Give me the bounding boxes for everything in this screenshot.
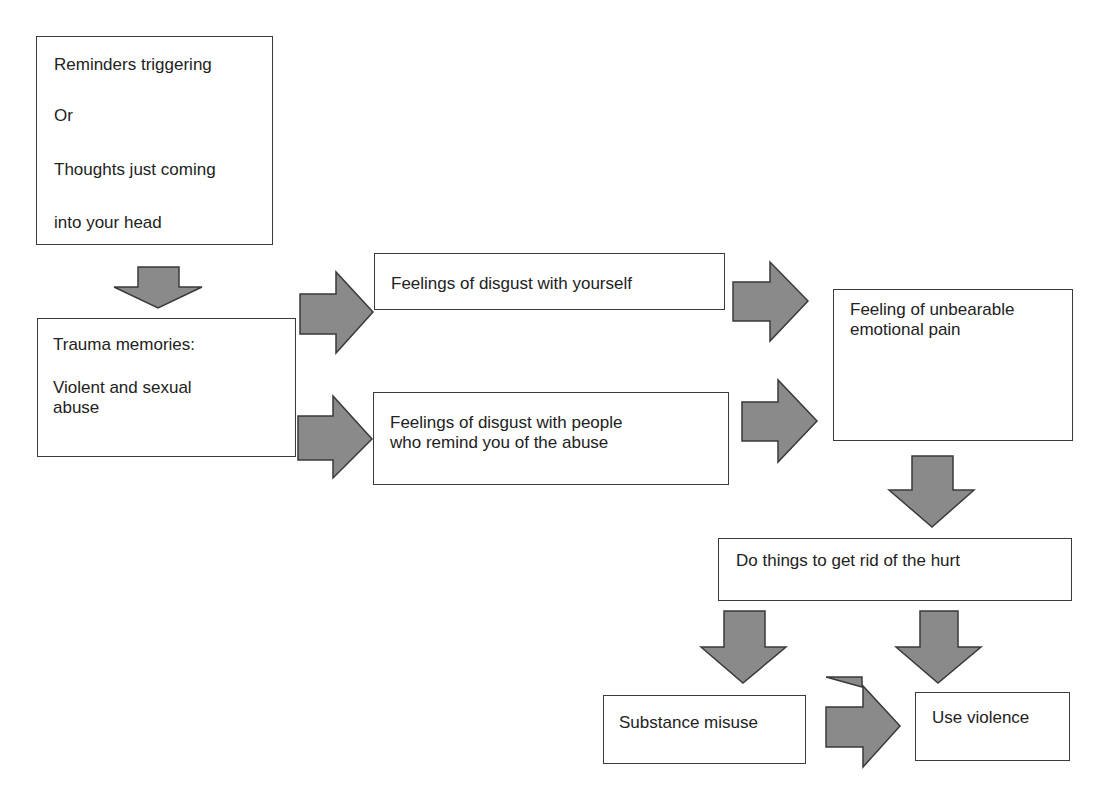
arrow-right-trauma-to-disgust-self-icon [300,272,373,353]
node-use-violence: Use violence [915,692,1070,761]
node-disgust-yourself-line-1: Feelings of disgust with yourself [391,274,724,294]
node-reminders: Reminders triggering Or Thoughts just co… [36,36,273,245]
node-get-rid-of-hurt: Do things to get rid of the hurt [718,538,1072,601]
node-trauma-line-2: Violent and sexual [53,378,295,398]
node-reminders-line-3: Thoughts just coming [54,160,272,213]
node-reminders-line-4: into your head [54,213,272,233]
node-pain-line-2: emotional pain [850,320,1072,340]
arrow-right-substance-to-violence-icon [826,677,862,687]
arrow-right-trauma-to-disgust-people-icon [298,396,372,478]
node-disgust-yourself: Feelings of disgust with yourself [374,253,725,310]
node-reminders-line-1: Reminders triggering [54,55,272,106]
arrow-down-get-rid-to-violence-icon [896,611,981,683]
node-get-rid-line-1: Do things to get rid of the hurt [736,551,1071,571]
arrow-down-pain-to-get-rid-icon [889,456,974,527]
node-trauma-line-3: abuse [53,398,295,418]
node-disgust-people-line-1: Feelings of disgust with people [390,413,728,433]
node-trauma-line-1: Trauma memories: [53,335,295,378]
node-unbearable-pain: Feeling of unbearable emotional pain [833,289,1073,441]
node-violence-line-1: Use violence [932,708,1069,728]
node-disgust-people-line-2: who remind you of the abuse [390,433,728,453]
node-trauma-memories: Trauma memories: Violent and sexual abus… [37,318,296,457]
arrow-right-disgust-self-to-pain-icon [733,262,808,341]
node-substance-line-1: Substance misuse [619,713,805,733]
arrow-right-substance-to-violence-icon [826,686,900,767]
arrow-down-get-rid-to-substance-icon [701,611,786,683]
node-pain-line-1: Feeling of unbearable [850,300,1072,320]
node-disgust-people: Feelings of disgust with people who remi… [373,392,729,485]
node-reminders-line-2: Or [54,106,272,160]
arrow-right-disgust-people-to-pain-icon [742,380,817,462]
arrow-down-reminders-to-trauma-icon [114,267,202,308]
node-substance-misuse: Substance misuse [603,695,806,764]
